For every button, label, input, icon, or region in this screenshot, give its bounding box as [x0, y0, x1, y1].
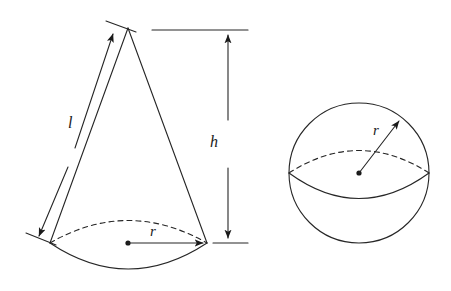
- sphere-radius-arrow: [359, 121, 399, 173]
- cone-right-edge: [128, 28, 207, 243]
- sphere-radius-label: r: [373, 123, 379, 138]
- cone-base-back-arc: [50, 221, 207, 244]
- cone-slant-arrow-lower: [39, 167, 68, 236]
- cone-radius-label: r: [150, 224, 156, 239]
- sphere-radius-dimension: [359, 121, 399, 173]
- cone-left-edge: [50, 28, 128, 243]
- sphere-equator-front-arc: [289, 173, 429, 199]
- geometry-figure: l h r r: [0, 0, 451, 291]
- cone-height-dimension: [152, 30, 248, 243]
- cone-slant-dimension: [26, 21, 136, 245]
- cone-height-label: h: [210, 134, 218, 150]
- cone-base-front-arc: [50, 243, 207, 269]
- figure-canvas: [0, 0, 451, 291]
- cone-slant-height-label: l: [68, 115, 72, 131]
- cone-slant-arrow-upper: [75, 34, 113, 148]
- sphere-equator-back-arc: [289, 151, 429, 174]
- cone-shape: [50, 28, 207, 269]
- cone-slant-extension-top: [106, 21, 136, 32]
